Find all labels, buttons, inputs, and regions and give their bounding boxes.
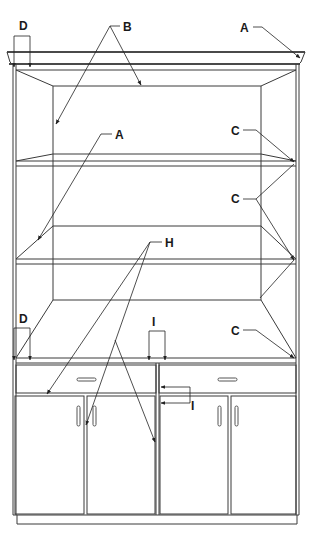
back-panel <box>16 70 296 300</box>
center-divider <box>156 363 159 515</box>
cabinet-doors <box>15 396 296 514</box>
svg-text:C: C <box>231 124 240 138</box>
shelf-upper <box>16 154 296 166</box>
door-handle-4 <box>235 406 238 426</box>
drawer-handle-left <box>77 378 96 381</box>
callout-c-middle: C <box>231 164 294 260</box>
svg-text:C: C <box>231 192 240 206</box>
door-handle-2 <box>93 406 96 426</box>
svg-text:D: D <box>19 19 28 33</box>
svg-text:H: H <box>165 236 174 250</box>
callout-b: B <box>56 20 141 124</box>
svg-text:D: D <box>19 312 28 326</box>
shelf-bottom <box>16 300 296 363</box>
svg-text:B: B <box>123 20 132 34</box>
door-handle-3 <box>218 406 221 426</box>
callout-c-bottom: C <box>231 260 294 358</box>
callout-c-upper: C <box>231 124 294 162</box>
drawer-handle-right <box>218 378 237 381</box>
svg-text:A: A <box>240 21 249 35</box>
shelf-middle <box>16 226 296 264</box>
door-handle-1 <box>77 406 80 426</box>
crown-moulding <box>7 52 305 70</box>
svg-text:C: C <box>231 324 240 338</box>
svg-text:I: I <box>152 315 155 329</box>
callout-a-shelf: A <box>38 128 124 240</box>
base <box>13 515 299 524</box>
svg-text:A: A <box>115 128 124 142</box>
callout-d-top: D <box>14 19 30 67</box>
svg-text:I: I <box>191 399 194 413</box>
bookcase-diagram: A B D A C C C H <box>0 0 315 536</box>
